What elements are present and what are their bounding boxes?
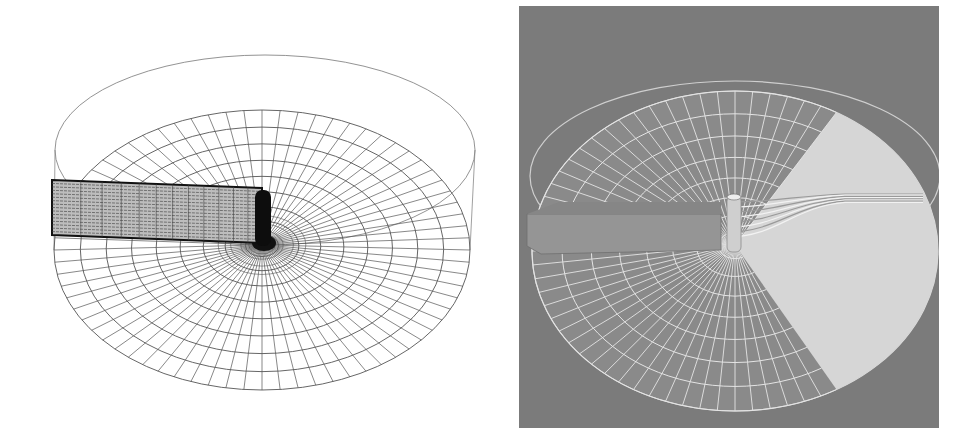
mesh-radial-line [264,135,381,242]
mesh-radial-line [265,247,409,349]
wireframe-mesh-panel [0,0,500,443]
mesh-radial-line [115,247,259,349]
mesh-radial-line [263,248,298,388]
cylinder [255,190,271,246]
mesh-radial-line [265,143,396,243]
mesh-radial-line [191,248,261,382]
channel-body [527,214,721,254]
rendered-mesh-panel [519,6,939,428]
mesh-radial-line [265,151,409,243]
channel-top-face [527,202,721,214]
cylinder-top [727,194,741,200]
mesh-radial-line [264,248,350,377]
channel-mesh [52,180,262,243]
mesh-radial-line [265,160,421,243]
mesh-radial-line [266,246,467,275]
mesh-radial-line [226,248,261,388]
mesh-radial-line [265,170,432,244]
cylinder [727,196,741,252]
mesh-radial-line [57,246,258,275]
mesh-radial-line [263,118,333,242]
mesh-radial-line [174,248,260,377]
rendered-mesh-figure [519,6,939,428]
mesh-radial-line [263,248,333,382]
wireframe-mesh-figure [0,0,500,443]
